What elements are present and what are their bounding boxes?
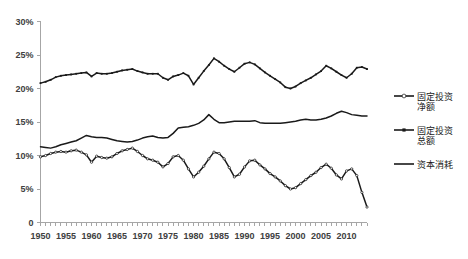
series-marker — [39, 156, 41, 158]
series-marker — [95, 155, 97, 157]
series-marker — [131, 68, 133, 70]
series-lines — [39, 57, 368, 208]
series-marker — [157, 161, 159, 163]
series-marker — [346, 77, 348, 79]
series-marker — [341, 74, 343, 76]
series-marker — [218, 61, 220, 63]
legend-label-line2: 总额 — [417, 135, 435, 146]
series-line-capital-consumption — [41, 111, 368, 148]
series-marker — [228, 68, 230, 70]
legend-item[interactable]: 固定投资总额 — [394, 125, 453, 147]
series-marker — [50, 152, 52, 154]
series-marker — [254, 159, 256, 161]
series-marker — [116, 152, 118, 154]
series-marker — [310, 77, 312, 79]
series-marker — [356, 174, 358, 176]
series-marker — [60, 75, 62, 77]
series-marker — [80, 72, 82, 74]
x-tick-label: 1955 — [56, 231, 76, 241]
series-marker — [315, 74, 317, 76]
series-marker — [192, 176, 194, 178]
series-marker — [198, 171, 200, 173]
series-marker — [44, 154, 46, 156]
series-marker — [289, 188, 291, 190]
axis-lines — [41, 22, 368, 223]
y-tick-label: 20% — [15, 84, 33, 94]
x-tick-label: 1995 — [260, 231, 280, 241]
legend-item[interactable]: 固定投资净额 — [394, 91, 453, 113]
series-marker — [264, 168, 266, 170]
series-marker — [96, 72, 98, 74]
series-marker — [208, 64, 210, 66]
series-marker — [172, 156, 174, 158]
y-tick-label: 0 — [28, 218, 33, 228]
series-marker — [356, 67, 358, 69]
series-marker — [152, 73, 154, 75]
series-marker — [141, 154, 143, 156]
series-marker — [239, 67, 241, 69]
x-tick-label: 1975 — [158, 231, 178, 241]
series-marker — [351, 168, 353, 170]
chart-legend: 固定投资净额固定投资总额资本消耗 — [394, 91, 453, 170]
legend-label: 固定投资 — [417, 125, 453, 136]
series-marker — [320, 70, 322, 72]
x-axis-ticks: 1950195519601965197019751980198519901995… — [30, 223, 367, 241]
series-marker — [91, 76, 93, 78]
series-marker — [177, 154, 179, 156]
series-marker — [295, 86, 297, 88]
x-tick-label: 1980 — [184, 231, 204, 241]
series-marker — [187, 168, 189, 170]
series-marker — [142, 72, 144, 74]
series-marker — [136, 150, 138, 152]
chart-container: 05%10%15%20%25%30% 195019551960196519701… — [0, 0, 468, 259]
series-marker — [85, 154, 87, 156]
legend-marker-circle-icon — [402, 94, 406, 98]
series-marker — [233, 71, 235, 73]
series-marker — [330, 167, 332, 169]
series-marker — [86, 72, 88, 74]
y-tick-label: 25% — [15, 50, 33, 60]
x-tick-label: 1985 — [209, 231, 229, 241]
x-tick-label: 2000 — [286, 231, 306, 241]
series-marker — [101, 73, 103, 75]
legend-item[interactable]: 资本消耗 — [394, 159, 453, 170]
series-marker — [305, 178, 307, 180]
series-marker — [264, 72, 266, 74]
series-marker — [55, 151, 57, 153]
series-marker — [325, 163, 327, 165]
y-tick-label: 10% — [15, 151, 33, 161]
series-marker — [351, 73, 353, 75]
x-tick-label: 2005 — [311, 231, 331, 241]
series-marker — [203, 70, 205, 72]
series-marker — [269, 172, 271, 174]
series-marker — [101, 156, 103, 158]
series-marker — [208, 158, 210, 160]
series-marker — [177, 74, 179, 76]
series-marker — [345, 170, 347, 172]
series-marker — [106, 157, 108, 159]
series-marker — [254, 63, 256, 65]
series-marker — [300, 182, 302, 184]
series-marker — [274, 176, 276, 178]
series-marker — [111, 156, 113, 158]
series-marker — [335, 174, 337, 176]
series-marker — [294, 187, 296, 189]
series-marker — [279, 180, 281, 182]
series-marker — [335, 71, 337, 73]
series-marker — [310, 174, 312, 176]
series-marker — [167, 162, 169, 164]
series-marker — [182, 159, 184, 161]
series-marker — [162, 77, 164, 79]
series-marker — [152, 159, 154, 161]
y-tick-label: 5% — [20, 184, 33, 194]
line-chart: 05%10%15%20%25%30% 195019551960196519701… — [0, 0, 468, 259]
series-marker — [366, 206, 368, 208]
series-marker — [90, 161, 92, 163]
series-line-gross-fixed-investment — [41, 58, 368, 88]
x-tick-label: 2010 — [337, 231, 357, 241]
series-marker — [274, 78, 276, 80]
series-marker — [70, 150, 72, 152]
series-marker — [340, 178, 342, 180]
series-marker — [249, 61, 251, 63]
series-marker — [223, 158, 225, 160]
